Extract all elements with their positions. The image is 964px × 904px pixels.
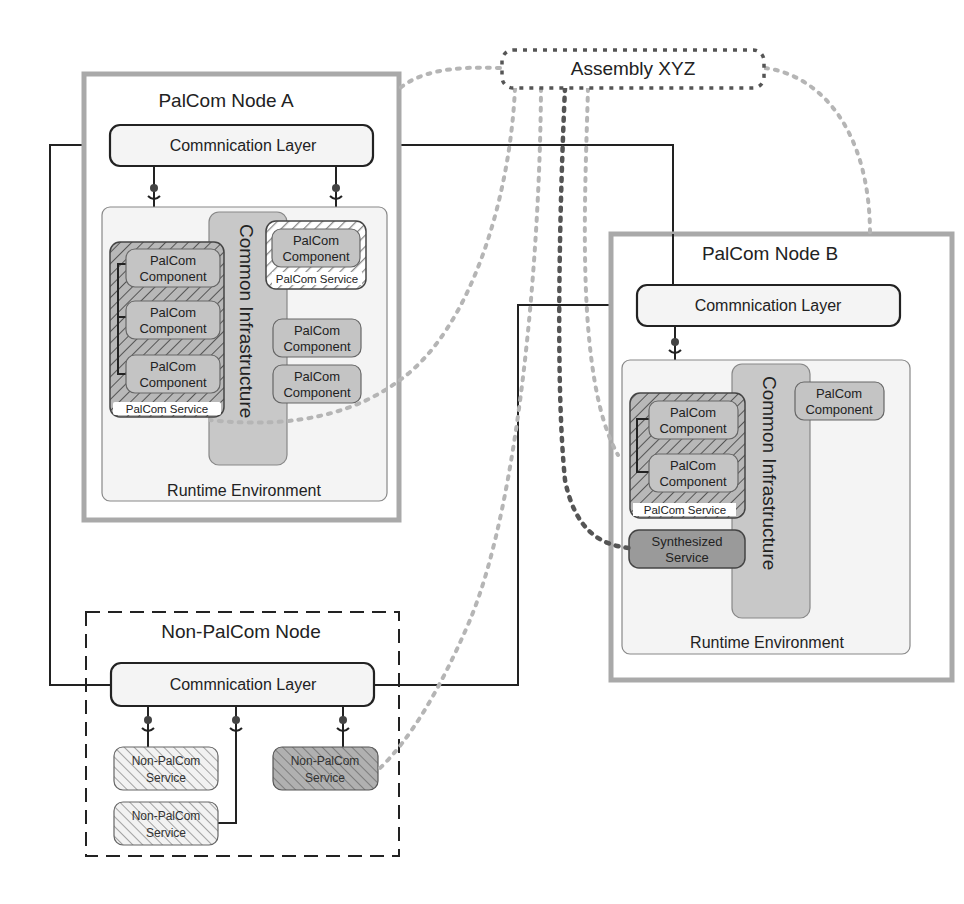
palcom-component[interactable]: PalCom Component bbox=[126, 301, 220, 339]
svg-text:Non-PalCom: Non-PalCom bbox=[132, 809, 201, 823]
svg-text:PalCom: PalCom bbox=[816, 386, 862, 401]
palcom-node-a[interactable]: PalCom Node A Commnication Layer Runtime… bbox=[84, 74, 399, 520]
comm-layer-label: Commnication Layer bbox=[695, 297, 842, 314]
non-palcom-service[interactable]: Non-PalCom Service bbox=[114, 747, 218, 790]
infrastructure-label: Common Infrastructure bbox=[759, 376, 780, 570]
palcom-component[interactable]: PalCom Component bbox=[649, 401, 738, 439]
svg-text:Synthesized: Synthesized bbox=[652, 534, 723, 549]
service-label: PalCom Service bbox=[126, 403, 208, 415]
svg-text:Component: Component bbox=[282, 249, 350, 264]
svg-text:PalCom: PalCom bbox=[670, 458, 716, 473]
node-b-title: PalCom Node B bbox=[702, 243, 838, 264]
runtime-label: Runtime Environment bbox=[167, 482, 321, 499]
svg-text:PalCom: PalCom bbox=[150, 305, 196, 320]
palcom-component[interactable]: PalCom Component bbox=[795, 382, 884, 420]
svg-text:Component: Component bbox=[659, 474, 727, 489]
synthesized-service[interactable]: Synthesized Service bbox=[629, 530, 745, 568]
assembly-label: Assembly XYZ bbox=[571, 58, 696, 79]
node-b-palcom-service[interactable]: PalCom Service PalCom Component PalCom C… bbox=[630, 393, 745, 518]
service-label: PalCom Service bbox=[644, 504, 726, 516]
svg-text:Non-PalCom: Non-PalCom bbox=[132, 754, 201, 768]
node-a-title: PalCom Node A bbox=[158, 90, 294, 111]
comm-layer-label: Commnication Layer bbox=[170, 137, 317, 154]
architecture-diagram: PalCom Node A Commnication Layer Runtime… bbox=[0, 0, 964, 904]
comm-layer-label: Commnication Layer bbox=[170, 676, 317, 693]
svg-text:Service: Service bbox=[146, 771, 186, 785]
svg-text:PalCom: PalCom bbox=[670, 405, 716, 420]
svg-text:PalCom: PalCom bbox=[150, 359, 196, 374]
palcom-component[interactable]: PalCom Component bbox=[126, 249, 220, 287]
svg-text:PalCom: PalCom bbox=[294, 369, 340, 384]
node-a-palcom-service-right[interactable]: PalCom Service PalCom Component bbox=[266, 221, 366, 289]
svg-text:Component: Component bbox=[659, 421, 727, 436]
non-palcom-comm-layer[interactable]: Commnication Layer bbox=[111, 663, 374, 706]
non-palcom-service-highlighted[interactable]: Non-PalCom Service bbox=[273, 747, 378, 790]
svg-text:Component: Component bbox=[283, 385, 351, 400]
svg-text:Service: Service bbox=[146, 826, 186, 840]
node-a-comm-layer[interactable]: Commnication Layer bbox=[110, 125, 373, 166]
palcom-component[interactable]: PalCom Component bbox=[273, 365, 361, 403]
palcom-component[interactable]: PalCom Component bbox=[272, 229, 360, 267]
svg-text:Component: Component bbox=[139, 375, 207, 390]
non-palcom-node-title: Non-PalCom Node bbox=[161, 621, 320, 642]
svg-text:PalCom: PalCom bbox=[294, 323, 340, 338]
runtime-label: Runtime Environment bbox=[690, 634, 844, 651]
assembly-xyz[interactable]: Assembly XYZ bbox=[502, 50, 764, 88]
node-a-palcom-service-left[interactable]: PalCom Service PalCom Component PalCom C… bbox=[110, 242, 224, 417]
svg-text:Service: Service bbox=[665, 550, 708, 565]
svg-text:Component: Component bbox=[805, 402, 873, 417]
node-b-comm-layer[interactable]: Commnication Layer bbox=[637, 285, 900, 326]
palcom-component[interactable]: PalCom Component bbox=[273, 319, 361, 357]
non-palcom-node[interactable]: Non-PalCom Node Commnication Layer Non-P… bbox=[86, 612, 399, 856]
svg-text:Component: Component bbox=[139, 269, 207, 284]
svg-text:Non-PalCom: Non-PalCom bbox=[291, 754, 360, 768]
non-palcom-service[interactable]: Non-PalCom Service bbox=[114, 802, 218, 845]
svg-text:Component: Component bbox=[283, 339, 351, 354]
palcom-component[interactable]: PalCom Component bbox=[649, 454, 738, 492]
infrastructure-label: Common Infrastructure bbox=[236, 224, 257, 418]
svg-text:PalCom: PalCom bbox=[150, 253, 196, 268]
palcom-node-b[interactable]: PalCom Node B Commnication Layer Runtime… bbox=[611, 234, 952, 680]
svg-text:Component: Component bbox=[139, 321, 207, 336]
svg-text:PalCom: PalCom bbox=[293, 233, 339, 248]
service-label: PalCom Service bbox=[276, 273, 358, 285]
palcom-component[interactable]: PalCom Component bbox=[126, 355, 220, 393]
svg-text:Service: Service bbox=[305, 771, 345, 785]
